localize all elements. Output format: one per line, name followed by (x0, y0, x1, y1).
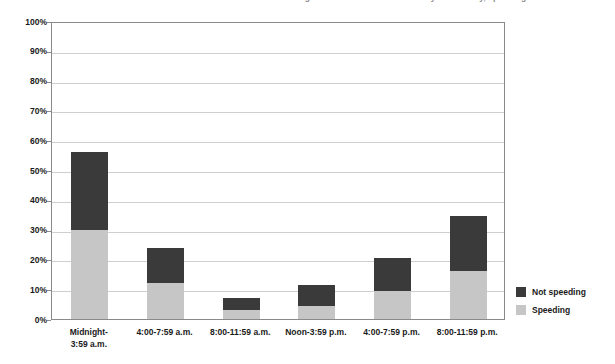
chart-title-text: Percentage of drivers in fatal crashes b… (268, 0, 526, 2)
bar-group (147, 21, 184, 319)
y-tick-label: 30% (3, 226, 47, 235)
y-tick-label: 90% (3, 47, 47, 56)
y-tick-label: 20% (3, 256, 47, 265)
gridline (52, 112, 504, 113)
chart-legend: Not speedingSpeeding (516, 283, 611, 319)
bar-segment-speeding (374, 291, 411, 319)
bar-segment-not-speeding (147, 248, 184, 284)
bar-segment-speeding (450, 271, 487, 319)
bar-segment-not-speeding (71, 152, 108, 229)
bar-segment-speeding (298, 306, 335, 319)
bar-group (71, 21, 108, 319)
plot-area (51, 22, 505, 320)
gridline (52, 291, 504, 292)
y-tick-label: 70% (3, 107, 47, 116)
bar-segment-speeding (147, 283, 184, 319)
y-tick-label: 10% (3, 286, 47, 295)
gridline (52, 232, 504, 233)
x-tick-label: 8:00-11:59 p.m. (412, 327, 522, 339)
legend-swatch (516, 287, 526, 297)
gridline (52, 142, 504, 143)
y-tick-label: 80% (3, 77, 47, 86)
legend-label: Not speeding (532, 287, 586, 297)
y-tick-label: 50% (3, 167, 47, 176)
gridline (52, 172, 504, 173)
y-tick-label: 0% (3, 316, 47, 325)
gridline (52, 83, 504, 84)
bar-segment-speeding (223, 310, 260, 319)
legend-swatch (516, 305, 526, 315)
bar-group (374, 21, 411, 319)
bar-segment-not-speeding (374, 258, 411, 291)
y-tick-label: 60% (3, 137, 47, 146)
legend-item: Not speeding (516, 283, 611, 301)
legend-label: Speeding (532, 305, 570, 315)
chart-title: Percentage of drivers in fatal crashes b… (268, 0, 615, 5)
bar-segment-speeding (71, 230, 108, 319)
legend-item: Speeding (516, 301, 611, 319)
bar-group (298, 21, 335, 319)
bar-segment-not-speeding (223, 298, 260, 310)
gridline (52, 202, 504, 203)
y-tick-label: 100% (3, 18, 47, 27)
bar-segment-not-speeding (450, 216, 487, 271)
bar-group (450, 21, 487, 319)
gridline (52, 261, 504, 262)
gridline (52, 53, 504, 54)
y-axis: 0%10%20%30%40%50%60%70%80%90%100% (0, 0, 47, 364)
bar-group (223, 21, 260, 319)
y-tick-mark (47, 320, 51, 321)
bar-segment-not-speeding (298, 285, 335, 306)
y-tick-label: 40% (3, 196, 47, 205)
